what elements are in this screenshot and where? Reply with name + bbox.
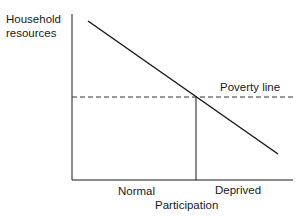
x-region-deprived: Deprived — [215, 184, 261, 197]
y-axis-label-line2: resources — [6, 27, 57, 40]
x-region-normal: Normal — [118, 185, 155, 198]
y-axis-label-line1: Household — [6, 13, 61, 26]
x-axis-label: Participation — [155, 199, 218, 212]
poverty-line-label: Poverty line — [220, 81, 280, 94]
